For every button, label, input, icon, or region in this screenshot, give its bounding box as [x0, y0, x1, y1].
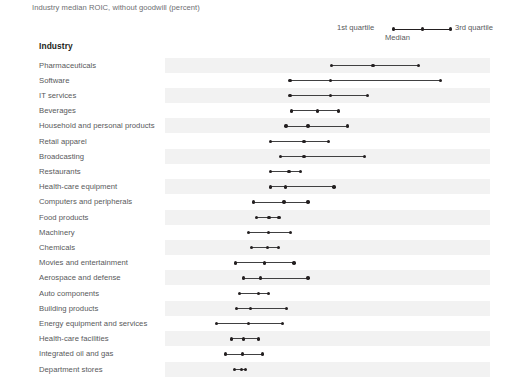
chart-row: Health-care equipment	[0, 179, 510, 194]
third-quartile-dot	[299, 170, 302, 173]
third-quartile-dot	[327, 140, 330, 143]
row-band	[165, 58, 490, 73]
median-dot	[242, 337, 245, 340]
third-quartile-dot	[439, 79, 442, 82]
chart-row: Chemicals	[0, 240, 510, 255]
chart-row: Department stores	[0, 362, 510, 377]
third-quartile-dot	[292, 261, 295, 264]
median-dot	[267, 216, 270, 219]
row-label: Auto components	[39, 289, 99, 298]
third-quartile-dot	[332, 185, 335, 188]
chart-row: Beverages	[0, 103, 510, 118]
first-quartile-dot	[238, 292, 241, 295]
median-dot	[241, 352, 244, 355]
row-label: Chemicals	[39, 243, 75, 252]
chart-row: IT services	[0, 88, 510, 103]
row-band	[165, 331, 490, 346]
row-band	[165, 301, 490, 316]
row-band	[165, 240, 490, 255]
quartile-range-line	[237, 308, 287, 309]
median-dot	[302, 155, 305, 158]
median-dot	[282, 200, 285, 203]
row-band	[165, 210, 490, 225]
quartile-range-line	[290, 80, 441, 81]
quartile-range-line	[254, 202, 309, 203]
first-quartile-dot	[269, 185, 272, 188]
first-quartile-dot	[284, 124, 287, 127]
row-label: Health-care equipment	[39, 182, 117, 191]
median-dot	[371, 64, 374, 67]
row-label: IT services	[39, 91, 76, 100]
first-quartile-dot	[252, 200, 255, 203]
row-label: Household and personal products	[39, 121, 155, 130]
quartile-range-line	[332, 65, 419, 66]
third-quartile-dot	[277, 216, 280, 219]
quartile-range-line	[281, 156, 365, 157]
third-quartile-dot	[306, 276, 309, 279]
row-label: Retail apparel	[39, 137, 87, 146]
first-quartile-dot	[234, 261, 237, 264]
quartile-range-line	[244, 278, 309, 279]
row-label: Food products	[39, 213, 88, 222]
chart-row: Integrated oil and gas	[0, 346, 510, 361]
median-dot	[287, 170, 290, 173]
first-quartile-dot	[230, 337, 233, 340]
quartile-range-line	[286, 126, 347, 127]
first-quartile-dot	[247, 231, 250, 234]
first-quartile-dot	[290, 109, 293, 112]
chart-row: Pharmaceuticals	[0, 58, 510, 73]
row-label: Machinery	[39, 228, 75, 237]
median-dot	[247, 322, 250, 325]
first-quartile-dot	[269, 140, 272, 143]
third-quartile-dot	[267, 292, 270, 295]
row-label: Building products	[39, 304, 98, 313]
chart-row: Food products	[0, 210, 510, 225]
median-dot	[263, 261, 266, 264]
row-label: Computers and peripherals	[39, 197, 132, 206]
median-dot	[257, 292, 260, 295]
quartile-range-line	[226, 354, 263, 355]
chart-row: Software	[0, 73, 510, 88]
third-quartile-dot	[281, 322, 284, 325]
third-quartile-dot	[337, 109, 340, 112]
third-quartile-dot	[261, 352, 264, 355]
quartile-range-line	[271, 141, 329, 142]
row-label: Health-care facilities	[39, 334, 109, 343]
row-label: Broadcasting	[39, 152, 84, 161]
chart-row: Aerospace and defense	[0, 270, 510, 285]
first-quartile-dot	[215, 322, 218, 325]
chart-row: Health-care facilities	[0, 331, 510, 346]
chart-row: Energy equipment and services	[0, 316, 510, 331]
first-quartile-dot	[242, 276, 245, 279]
quartile-range-line	[291, 110, 338, 111]
chart-row: Machinery	[0, 225, 510, 240]
quartile-range-line	[251, 247, 278, 248]
chart-row: Retail apparel	[0, 134, 510, 149]
row-label: Department stores	[39, 365, 103, 374]
row-label: Restaurants	[39, 167, 81, 176]
chart-row: Building products	[0, 301, 510, 316]
median-dot	[306, 124, 309, 127]
row-label: Integrated oil and gas	[39, 349, 113, 358]
median-dot	[267, 231, 270, 234]
row-label: Movies and entertainment	[39, 258, 128, 267]
row-label: Software	[39, 76, 70, 85]
third-quartile-dot	[257, 337, 260, 340]
chart-row: Computers and peripherals	[0, 194, 510, 209]
quartile-range-line	[239, 293, 268, 294]
row-label: Aerospace and defense	[39, 273, 121, 282]
median-dot	[329, 79, 332, 82]
median-dot	[284, 185, 287, 188]
chart-row: Auto components	[0, 286, 510, 301]
third-quartile-dot	[306, 200, 309, 203]
quartile-range-line	[271, 171, 301, 172]
row-band	[165, 270, 490, 285]
quartile-range-line	[271, 186, 335, 187]
row-label: Beverages	[39, 106, 76, 115]
third-quartile-dot	[346, 124, 349, 127]
median-dot	[240, 368, 243, 371]
row-label: Pharmaceuticals	[39, 61, 96, 70]
third-quartile-dot	[417, 64, 420, 67]
